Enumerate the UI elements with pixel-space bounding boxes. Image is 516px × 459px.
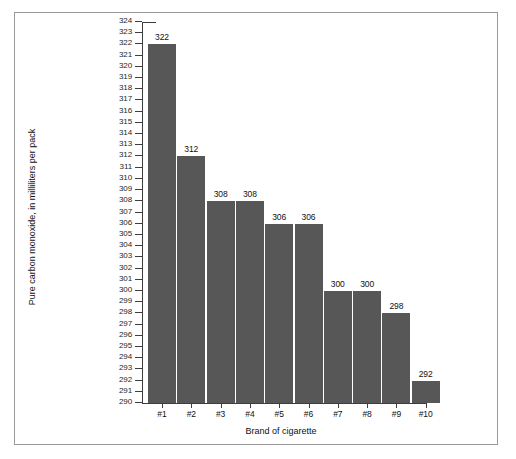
y-tick-label: 309 [108,184,132,194]
y-tick-mark [135,212,142,213]
x-tick-mark [367,403,368,408]
y-tick-mark [135,368,142,369]
y-tick-label: 314 [108,128,132,138]
figure-page: 3243233223213203193183173163153143133123… [0,0,516,459]
y-tick-mark [135,178,142,179]
bar [236,201,264,403]
y-tick-mark [135,301,142,302]
x-tick-mark [338,403,339,408]
x-axis-line [142,403,427,404]
x-tick-mark [279,403,280,408]
y-tick-mark [135,346,142,347]
y-tick-label: 298 [108,307,132,317]
y-tick-label: 296 [108,330,132,340]
bar-value-label: 292 [408,369,444,379]
y-tick-mark [135,245,142,246]
y-tick-mark [135,380,142,381]
bar-value-label: 322 [144,32,180,42]
y-tick-label: 312 [108,150,132,160]
y-tick-label: 292 [108,375,132,385]
y-tick-label: 302 [108,263,132,273]
bar [148,44,176,403]
y-tick-mark [135,223,142,224]
y-tick-label: 324 [108,16,132,26]
bar [207,201,235,403]
y-tick-mark [135,88,142,89]
y-tick-label: 304 [108,240,132,250]
y-tick-mark [135,200,142,201]
y-tick-label: 321 [108,50,132,60]
y-tick-label: 295 [108,341,132,351]
y-tick-label: 310 [108,173,132,183]
y-tick-mark [135,391,142,392]
y-tick-label: 315 [108,117,132,127]
y-tick-mark [135,189,142,190]
bar [412,381,440,403]
y-tick-label: 320 [108,61,132,71]
y-tick-mark [135,55,142,56]
y-tick-label: 305 [108,229,132,239]
y-tick-mark [135,77,142,78]
y-tick-mark [135,122,142,123]
y-tick-label: 299 [108,296,132,306]
y-tick-mark [135,43,142,44]
y-tick-mark [135,32,142,33]
y-tick-label: 322 [108,38,132,48]
y-tick-mark [135,256,142,257]
y-tick-label: 293 [108,363,132,373]
y-tick-mark [135,279,142,280]
bar [353,291,381,403]
bar [324,291,352,403]
y-tick-mark [135,133,142,134]
x-axis-title: Brand of cigarette [142,426,420,436]
y-tick-mark [135,21,142,22]
y-tick-mark [135,111,142,112]
y-tick-mark [135,290,142,291]
y-tick-label: 306 [108,218,132,228]
y-tick-mark [135,312,142,313]
x-tick-mark [191,403,192,408]
bar-value-label: 308 [232,189,268,199]
bar-chart: 3243233223213203193183173163153143133123… [0,0,516,459]
y-tick-label: 297 [108,319,132,329]
y-tick-mark [135,144,142,145]
y-tick-label: 316 [108,106,132,116]
x-tick-mark [309,403,310,408]
x-tick-mark [426,403,427,408]
x-tick-mark [250,403,251,408]
bar-value-label: 306 [291,212,327,222]
bar [265,224,293,403]
y-tick-label: 308 [108,195,132,205]
y-tick-mark [135,234,142,235]
y-tick-label: 294 [108,352,132,362]
x-tick-mark [162,403,163,408]
bar-value-label: 312 [173,144,209,154]
x-tick-label: #10 [407,409,445,420]
y-tick-mark [135,268,142,269]
bar-value-label: 300 [349,279,385,289]
y-tick-mark [135,335,142,336]
y-tick-mark [135,357,142,358]
y-axis-line [142,22,143,404]
y-tick-label: 323 [108,27,132,37]
y-tick-mark [135,66,142,67]
y-tick-label: 303 [108,251,132,261]
y-tick-label: 319 [108,72,132,82]
y-tick-label: 317 [108,94,132,104]
y-tick-label: 290 [108,397,132,407]
bar [382,313,410,403]
x-tick-mark [221,403,222,408]
y-tick-mark [135,324,142,325]
bar [177,156,205,403]
y-tick-label: 301 [108,274,132,284]
bar-value-label: 298 [378,301,414,311]
y-tick-mark [135,99,142,100]
y-axis-top-cap [142,22,156,23]
x-tick-mark [396,403,397,408]
y-tick-mark [135,167,142,168]
y-tick-label: 313 [108,139,132,149]
y-tick-label: 300 [108,285,132,295]
y-tick-mark [135,402,142,403]
y-tick-mark [135,155,142,156]
bar [295,224,323,403]
